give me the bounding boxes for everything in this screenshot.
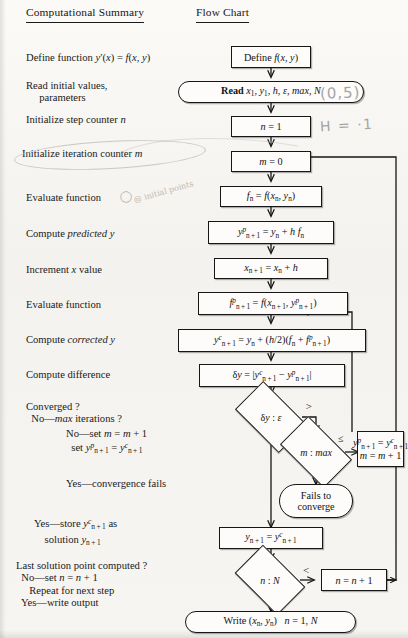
flow-node-store[interactable]: yn + 1 = ycn + 1 (219, 527, 323, 549)
flow-node-update[interactable]: ypn + 1 = ycn + 1 m = m + 1 (357, 431, 404, 467)
flow-node-n-N-label: n : N (260, 575, 279, 586)
flow-node-fn-label: fn = f(xn, yn) (247, 190, 295, 203)
flow-node-define-label: Define f(x, y) (244, 52, 298, 63)
flow-node-update-line1: ypn + 1 = ycn + 1 (353, 437, 408, 451)
flow-node-define[interactable]: Define f(x, y) (231, 46, 311, 68)
flow-node-incr-n-label: n = n + 1 (336, 575, 373, 586)
flow-node-store-label: yn + 1 = ycn + 1 (245, 531, 296, 545)
flow-node-xnext[interactable]: xn + 1 = xn + h (214, 258, 328, 279)
flow-node-delta[interactable]: δy = |ycn + 1 − ypn + 1| (199, 364, 345, 387)
annotation-initial-condition: (0,5) (320, 83, 361, 102)
flow-node-fails[interactable]: Fails to converge (279, 484, 353, 518)
flow-node-m-max-label: m : max (300, 447, 332, 458)
flow-node-ycorr[interactable]: ycn + 1 = yn + (h/2)(fn + fpn + 1) (178, 329, 366, 352)
flow-node-write-label: Write (xn, yn) n = 1, N (223, 615, 317, 628)
flow-node-fn[interactable]: fn = f(xn, yn) (220, 186, 322, 207)
flow-node-xnext-label: xn + 1 = xn + h (244, 262, 298, 275)
flow-node-incr-n[interactable]: n = n + 1 (321, 569, 387, 591)
flow-node-write[interactable]: Write (xn, yn) n = 1, N (185, 611, 356, 633)
flow-node-set-n-label: n = 1 (260, 121, 281, 132)
flow-node-update-line2: m = m + 1 (360, 450, 402, 461)
annotation-circle-mark: ◯ (120, 190, 132, 203)
flow-node-delta-label: δy = |ycn + 1 − ypn + 1| (232, 369, 311, 383)
flow-node-fpred[interactable]: fpn + 1 = f(xn + 1, ypn + 1) (198, 292, 348, 315)
annotation-step-size: H = ·1 (320, 116, 374, 135)
flow-node-read-label: Read x1, y1, h, ε, max, N (221, 85, 321, 98)
edge-label-less-than: < (303, 564, 309, 576)
edge-label-less-equal: ≤ (338, 433, 344, 444)
flow-node-fails-line2: converge (297, 501, 334, 512)
flow-node-ypred[interactable]: ypn + 1 = yn + h fn (208, 221, 334, 244)
annotation-pencil-swoosh (120, 132, 300, 160)
edge-label-greater-than: > (305, 400, 312, 412)
flow-node-fails-line1: Fails to (301, 490, 331, 501)
flow-node-fpred-label: fpn + 1 = f(xn + 1, ypn + 1) (229, 297, 316, 311)
flow-node-ycorr-label: ycn + 1 = yn + (h/2)(fn + fpn + 1) (214, 334, 330, 348)
flow-node-dy-eps-label: δy : ε (261, 412, 282, 423)
flow-node-n-N[interactable]: n : N (240, 560, 300, 600)
flow-node-ypred-label: ypn + 1 = yn + h fn (238, 226, 304, 240)
